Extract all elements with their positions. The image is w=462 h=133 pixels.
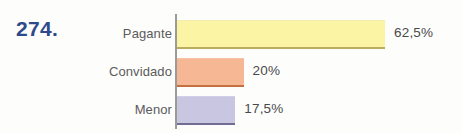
value-label-menor: 17,5% — [244, 101, 283, 116]
bar-row: Convidado 20% — [0, 53, 462, 91]
exercise-chart-screenshot: 274. Pagante 62,5% Convidado 20% Menor 1… — [0, 0, 462, 133]
bar-convidado — [177, 58, 244, 87]
value-label-convidado: 20% — [253, 63, 281, 78]
bar-pagante — [177, 20, 385, 49]
bar-row: Pagante 62,5% — [0, 15, 462, 53]
category-label-convidado: Convidado — [22, 64, 172, 79]
category-label-pagante: Pagante — [22, 26, 172, 41]
value-label-pagante: 62,5% — [394, 25, 433, 40]
category-label-menor: Menor — [22, 102, 172, 117]
horizontal-bar-chart: Pagante 62,5% Convidado 20% Menor 17,5% — [0, 0, 462, 133]
bar-row: Menor 17,5% — [0, 91, 462, 129]
bar-menor — [177, 96, 235, 125]
